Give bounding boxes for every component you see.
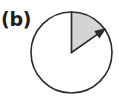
figure-panel: (b) — [0, 0, 119, 101]
panel-label: (b) — [1, 8, 31, 30]
